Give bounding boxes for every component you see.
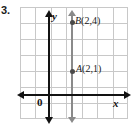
plotted-line-arrow-down-icon [68, 117, 76, 123]
x-axis-label: x [113, 98, 119, 109]
gridline-horizontal [20, 87, 128, 88]
plotted-line-x-equals-2 [71, 15, 73, 119]
y-axis [48, 16, 50, 118]
origin-label: 0 [37, 97, 43, 108]
gridline-horizontal [20, 55, 128, 56]
point-a-marker [70, 69, 75, 74]
x-axis-arrow-right-icon [124, 91, 131, 99]
x-axis-arrow-left-icon [17, 91, 24, 99]
point-b-coords: (2,4) [81, 15, 100, 26]
gridline-horizontal [20, 7, 128, 8]
y-axis-label: y [52, 11, 57, 22]
point-a-label: A(2,1) [76, 64, 101, 74]
point-b-marker [70, 20, 75, 25]
point-a-coords: (2,1) [82, 63, 101, 74]
problem-number: 3. [1, 5, 10, 16]
y-axis-arrow-down-icon [45, 117, 53, 124]
gridline-horizontal [20, 39, 128, 40]
point-b-label: B(2,4) [75, 16, 100, 26]
graph-box: B(2,4) A(2,1) y x 0 [20, 7, 128, 119]
coordinate-plane-figure: 3. [0, 0, 133, 129]
